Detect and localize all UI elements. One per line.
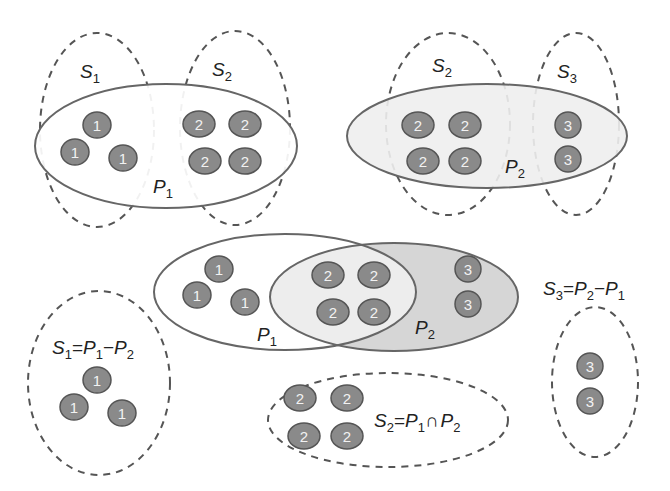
svg-text:2: 2 (343, 428, 351, 445)
svg-text:2: 2 (201, 153, 209, 170)
ball: 2 (288, 423, 320, 449)
bottom-left-group: S1=P1−P2 1 1 1 (28, 291, 170, 475)
svg-text:2: 2 (419, 153, 427, 170)
svg-text:1: 1 (118, 405, 126, 422)
s2-label: S2 (432, 55, 452, 80)
s2-formula: S2=P1∩P2 (374, 410, 461, 435)
svg-text:3: 3 (564, 117, 572, 134)
ball: 2 (331, 385, 363, 411)
svg-text:1: 1 (93, 372, 101, 389)
ball: 2 (229, 111, 261, 137)
svg-text:2: 2 (343, 390, 351, 407)
svg-text:2: 2 (296, 390, 304, 407)
ball: 2 (449, 148, 481, 174)
svg-text:2: 2 (370, 304, 378, 321)
top-right-group: S2 S3 P2 2 2 2 2 3 3 (347, 33, 627, 215)
svg-text:3: 3 (464, 296, 472, 313)
svg-text:2: 2 (241, 116, 249, 133)
svg-text:2: 2 (300, 428, 308, 445)
svg-text:2: 2 (329, 304, 337, 321)
set-partition-diagram: S1 S2 P1 1 1 1 2 2 2 2 S2 S3 P2 2 2 2 2 … (0, 0, 670, 491)
ball: 1 (61, 139, 89, 165)
s1-formula: S1=P1−P2 (52, 337, 134, 362)
ball: 2 (358, 299, 390, 325)
s3-formula: S3=P2−P1 (543, 278, 625, 303)
svg-text:2: 2 (195, 116, 203, 133)
ball: 2 (183, 111, 215, 137)
ball: 2 (284, 385, 316, 411)
ball: 2 (402, 112, 434, 138)
middle-venn-group: P1 P2 1 1 1 2 2 2 2 3 3 (154, 234, 518, 351)
svg-text:2: 2 (370, 267, 378, 284)
ball: 2 (317, 299, 349, 325)
ball: 3 (577, 353, 603, 379)
svg-text:1: 1 (71, 144, 79, 161)
svg-text:1: 1 (119, 150, 127, 167)
ball: 1 (60, 394, 88, 420)
ball: 2 (312, 262, 344, 288)
ball: 1 (205, 256, 233, 282)
s2-label: S2 (212, 59, 232, 84)
svg-text:2: 2 (324, 267, 332, 284)
svg-text:2: 2 (241, 153, 249, 170)
svg-text:1: 1 (93, 117, 101, 134)
ball: 2 (189, 148, 221, 174)
svg-text:3: 3 (464, 261, 472, 278)
svg-text:1: 1 (193, 287, 201, 304)
svg-text:2: 2 (461, 117, 469, 134)
svg-text:3: 3 (586, 358, 594, 375)
p2-ellipse (347, 84, 627, 188)
ball: 3 (455, 256, 481, 282)
ball: 2 (449, 112, 481, 138)
ball: 1 (108, 400, 136, 426)
ball: 1 (109, 145, 137, 171)
svg-text:1: 1 (215, 261, 223, 278)
s3-result-dashed-set (552, 307, 638, 457)
ball: 1 (231, 289, 259, 315)
ball: 2 (407, 148, 439, 174)
svg-text:2: 2 (414, 117, 422, 134)
svg-text:2: 2 (461, 153, 469, 170)
ball: 1 (183, 282, 211, 308)
top-left-group: S1 S2 P1 1 1 1 2 2 2 2 (35, 31, 297, 227)
ball: 3 (455, 291, 481, 317)
svg-text:1: 1 (241, 294, 249, 311)
ball: 3 (577, 388, 603, 414)
svg-text:1: 1 (70, 399, 78, 416)
bottom-center-group: 2 2 2 2 S2=P1∩P2 (268, 373, 508, 467)
svg-text:3: 3 (586, 393, 594, 410)
ball: 2 (331, 423, 363, 449)
svg-text:3: 3 (564, 151, 572, 168)
s3-label: S3 (557, 61, 577, 86)
ball: 1 (83, 112, 111, 138)
ball: 2 (229, 148, 261, 174)
s1-label: S1 (80, 61, 100, 86)
ball: 3 (555, 146, 581, 172)
bottom-right-group: S3=P2−P1 3 3 (543, 278, 638, 457)
ball: 2 (358, 262, 390, 288)
ball: 3 (555, 112, 581, 138)
ball: 1 (83, 367, 111, 393)
